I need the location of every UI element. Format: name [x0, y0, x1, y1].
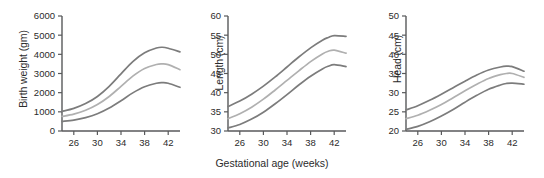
growth-curve: [62, 83, 180, 122]
x-tick-label: 34: [282, 137, 293, 148]
growth-curve: [228, 50, 346, 119]
growth-curve: [62, 47, 180, 111]
y-tick-label: 30: [388, 87, 399, 98]
y-tick-label: 40: [388, 49, 399, 60]
x-tick-label: 38: [483, 137, 494, 148]
y-tick-label: 50: [210, 49, 221, 60]
x-tick-label: 42: [163, 137, 174, 148]
y-tick-label: 6000: [34, 10, 55, 21]
y-tick-label: 30: [210, 125, 221, 136]
plot-area-head: 202530354045502630343842: [406, 16, 524, 131]
x-tick-label: 38: [305, 137, 316, 148]
growth-curve: [406, 73, 524, 119]
y-axis-label-birth-weight: Birth weight (gm): [17, 4, 31, 134]
plot-svg-birth-weight: 01000200030004000500060002630343842: [62, 16, 180, 131]
y-tick-label: 40: [210, 87, 221, 98]
plot-svg-length: 303540455055602630343842: [228, 16, 346, 131]
x-axis-title: Gestational age (weeks): [0, 157, 544, 169]
y-tick-label: 20: [388, 125, 399, 136]
plot-area-length: 303540455055602630343842: [228, 16, 346, 131]
x-tick-label: 42: [507, 137, 518, 148]
x-tick-label: 30: [92, 137, 103, 148]
y-tick-label: 60: [210, 10, 221, 21]
growth-charts-figure: Birth weight (gm) 0100020003000400050006…: [0, 0, 544, 178]
plot-area-birth-weight: 01000200030004000500060002630343842: [62, 16, 180, 131]
y-tick-label: 45: [210, 68, 221, 79]
x-tick-label: 38: [139, 137, 150, 148]
y-tick-label: 55: [210, 30, 221, 41]
y-tick-label: 4000: [34, 49, 55, 60]
y-tick-label: 35: [388, 68, 399, 79]
x-tick-label: 42: [329, 137, 340, 148]
y-tick-label: 35: [210, 106, 221, 117]
y-tick-label: 1000: [34, 106, 55, 117]
x-tick-label: 26: [235, 137, 246, 148]
x-tick-label: 30: [436, 137, 447, 148]
plot-svg-head: 202530354045502630343842: [406, 16, 524, 131]
y-tick-label: 50: [388, 10, 399, 21]
panel-length: Length (cm) 303540455055602630343842: [180, 0, 362, 152]
panel-head: Head (cm) 202530354045502630343842: [358, 0, 540, 152]
y-tick-label: 2000: [34, 87, 55, 98]
y-tick-label: 25: [388, 106, 399, 117]
growth-curve: [228, 36, 346, 107]
growth-curve: [228, 65, 346, 128]
growth-curve: [62, 64, 180, 117]
x-tick-label: 34: [116, 137, 127, 148]
y-tick-label: 5000: [34, 30, 55, 41]
y-tick-label: 0: [50, 125, 55, 136]
x-tick-label: 34: [460, 137, 471, 148]
y-tick-label: 45: [388, 30, 399, 41]
x-tick-label: 30: [258, 137, 269, 148]
panel-birth-weight: Birth weight (gm) 0100020003000400050006…: [0, 0, 182, 152]
x-tick-label: 26: [69, 137, 80, 148]
y-tick-label: 3000: [34, 68, 55, 79]
x-tick-label: 26: [413, 137, 424, 148]
